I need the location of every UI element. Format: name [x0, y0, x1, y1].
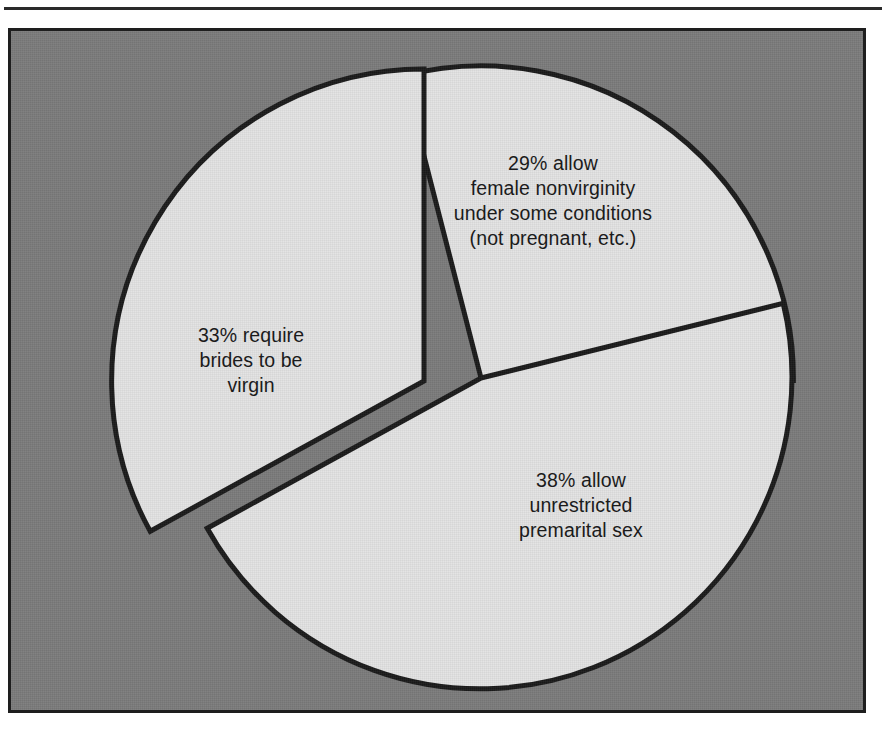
top-divider-rule — [4, 7, 882, 10]
pie-chart-figure-panel: 29% allow female nonvirginity under some… — [8, 28, 866, 713]
pie-slice-33-label: 33% require brides to be virgin — [131, 323, 371, 398]
pie-slice-38-label: 38% allow unrestricted premarital sex — [451, 468, 711, 543]
pie-slice-29-label: 29% allow female nonvirginity under some… — [403, 151, 703, 251]
